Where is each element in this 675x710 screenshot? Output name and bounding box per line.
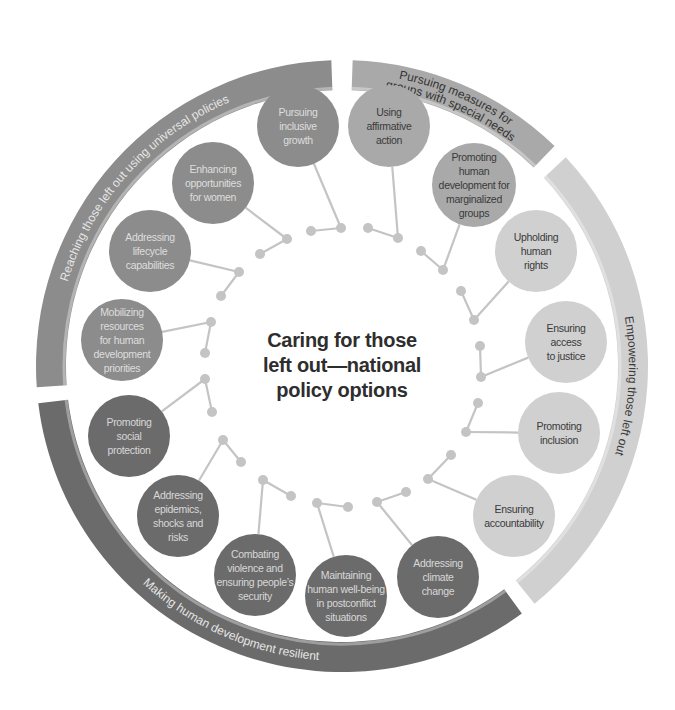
connector-line: [205, 379, 212, 412]
policy-node-label-line: growth: [278, 133, 317, 147]
connector-dot: [363, 223, 373, 233]
policy-node: Addressingepidemics,shocks andrisks: [137, 475, 219, 557]
policy-node-label-line: Addressing: [413, 556, 463, 570]
connector-dot: [216, 291, 226, 301]
connector-line: [428, 479, 476, 500]
policy-node-label-line: situations: [307, 610, 385, 624]
policy-node-label-line: Enhancing: [185, 162, 241, 176]
policy-node-label-line: Maintaining: [307, 568, 385, 582]
policy-node-label-line: accountability: [484, 516, 543, 530]
connector-dot: [336, 223, 346, 233]
policy-node-label-line: human: [514, 244, 559, 258]
policy-node-label-line: Ensuring: [484, 502, 543, 516]
center-title-line-3: policy options: [232, 378, 452, 403]
connector-dot: [286, 491, 296, 501]
policy-node-label-line: to justice: [546, 349, 585, 363]
policy-node-label-line: climate: [413, 570, 463, 584]
center-title-line-1: Caring for those: [232, 328, 452, 353]
connector-dot: [218, 435, 228, 445]
connector-dot: [306, 226, 316, 236]
connector-dot: [469, 315, 479, 325]
policy-node-label-line: protection: [106, 443, 151, 457]
policy-node-label-line: change: [413, 584, 463, 598]
policy-node-label-line: social: [106, 429, 151, 443]
connector-line: [466, 432, 518, 433]
policy-node-label-line: opportunities: [185, 176, 241, 190]
connector-dot: [401, 487, 411, 497]
connector-dot: [416, 246, 426, 256]
policy-node-label-line: priorities: [94, 361, 151, 375]
policy-node-label-line: Pursuing: [278, 105, 317, 119]
policy-node-label-line: human: [439, 164, 510, 178]
policy-node-label-line: Mobilizing: [94, 305, 151, 319]
center-title-line-2: left out—national: [232, 353, 452, 378]
policy-node-label-line: human well-being: [307, 582, 385, 596]
connector-dot: [476, 372, 486, 382]
policy-node-label-line: risks: [153, 530, 203, 544]
policy-node-label-line: groups: [439, 206, 510, 220]
policy-node-label-line: development for: [439, 178, 510, 192]
connector-line: [199, 440, 223, 481]
policy-node: Enhancingopportunitiesfor women: [172, 142, 254, 224]
connector-line: [162, 322, 211, 332]
policy-node-label-line: inclusive: [278, 119, 317, 133]
policy-node-label-line: Addressing: [153, 488, 203, 502]
connector-line: [162, 379, 205, 411]
policy-node: Maintaininghuman well-beingin postconfli…: [305, 555, 387, 637]
policy-node-label-line: action: [367, 133, 412, 147]
connector-dot: [343, 502, 353, 512]
connector-dot: [475, 341, 485, 351]
policy-node: Addressingclimatechange: [397, 536, 479, 618]
policy-node-label-line: Promoting: [106, 415, 151, 429]
policy-node: Addressinglifecyclecapabilities: [109, 210, 191, 292]
policy-node-label-line: violence and: [216, 561, 293, 575]
connector-dot: [236, 457, 246, 467]
policy-node-label-line: Promoting: [536, 419, 581, 433]
policy-node-label-line: security: [216, 589, 293, 603]
policy-node-label-line: epidemics,: [153, 502, 203, 516]
connector-dot: [372, 497, 382, 507]
policy-node-label-line: for women: [185, 190, 241, 204]
policy-node-label-line: Promoting: [439, 150, 510, 164]
connector-dot: [438, 265, 448, 275]
connector-dot: [423, 474, 433, 484]
policy-node-label-line: capabilities: [125, 258, 175, 272]
connector-dot: [200, 374, 210, 384]
policy-node-label-line: in postconflict: [307, 596, 385, 610]
policy-node: Promotingsocialprotection: [88, 395, 170, 477]
connector-dot: [258, 475, 268, 485]
connector-line: [481, 358, 528, 377]
policy-node-label-line: resources: [94, 319, 151, 333]
policy-options-diagram: Reaching those left out using universal …: [0, 0, 675, 710]
connector-line: [190, 260, 239, 272]
connector-line: [443, 224, 460, 270]
policy-node-label-line: ensuring people’s: [216, 575, 293, 589]
policy-node-label-line: rights: [514, 258, 559, 272]
connector-dot: [234, 267, 244, 277]
connector-line: [314, 164, 341, 228]
connector-dot: [255, 249, 265, 259]
policy-node-label-line: Addressing: [125, 230, 175, 244]
policy-node-label-line: Combating: [216, 547, 293, 561]
policy-node: Promotinghumandevelopment formarginalize…: [432, 143, 516, 227]
connector-line: [246, 208, 287, 239]
connector-dot: [461, 427, 471, 437]
policy-node-label-line: lifecycle: [125, 244, 175, 258]
policy-node-label-line: Using: [367, 105, 412, 119]
policy-node: Upholdinghumanrights: [495, 210, 577, 292]
connector-dot: [456, 286, 466, 296]
policy-node-label-line: access: [546, 335, 585, 349]
connector-line: [392, 167, 398, 238]
policy-node-label-line: affirmative: [367, 119, 412, 133]
connector-dot: [282, 234, 292, 244]
policy-node-label-line: shocks and: [153, 516, 203, 530]
policy-node: Combatingviolence andensuring people’sse…: [214, 534, 296, 616]
connector-line: [474, 281, 509, 320]
connector-dot: [206, 317, 216, 327]
policy-node-label-line: inclusion: [536, 433, 581, 447]
policy-node: Promotinginclusion: [518, 392, 600, 474]
center-title: Caring for those left out—national polic…: [232, 328, 452, 403]
policy-node-label-line: marginalized: [439, 192, 510, 206]
policy-node: Pursuinginclusivegrowth: [257, 85, 339, 167]
policy-node: Ensuringaccountability: [473, 475, 555, 557]
